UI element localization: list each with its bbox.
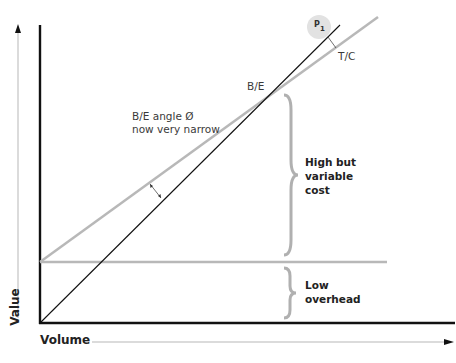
- variable-cost-line2: variable: [305, 169, 356, 183]
- overhead-line1: Low: [305, 278, 361, 292]
- tc-angle-indicator: [328, 37, 336, 48]
- variable-cost-brace: [284, 95, 298, 255]
- chart-canvas: [0, 0, 456, 363]
- angle-note-line2: now very narrow: [132, 123, 220, 136]
- y-axis-arrowhead-icon: [15, 24, 21, 33]
- overhead-label: Low overhead: [305, 278, 361, 306]
- overhead-line2: overhead: [305, 292, 361, 306]
- total-cost-line: [40, 17, 378, 262]
- break-even-label: B/E: [247, 80, 264, 93]
- angle-note: B/E angle Ø now very narrow: [132, 110, 220, 136]
- variable-cost-label: High but variable cost: [305, 155, 356, 197]
- p1-subscript: 1: [320, 25, 325, 33]
- x-axis-arrowhead-icon: [444, 339, 454, 345]
- variable-cost-line3: cost: [305, 183, 356, 197]
- x-axis-label: Volume: [40, 333, 90, 347]
- p1-label: P: [314, 20, 320, 29]
- variable-cost-line1: High but: [305, 155, 356, 169]
- angle-note-line1: B/E angle Ø: [132, 110, 220, 123]
- p1-marker: P 1: [307, 15, 331, 39]
- overhead-brace: [284, 268, 296, 318]
- total-cost-label: T/C: [338, 50, 355, 63]
- y-axis-label: Value: [8, 288, 22, 326]
